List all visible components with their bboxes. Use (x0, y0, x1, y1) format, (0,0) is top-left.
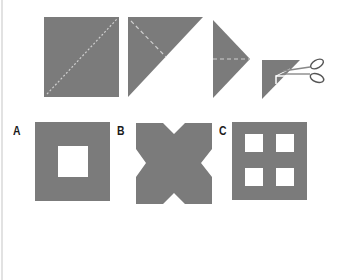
option-b-shape[interactable] (136, 123, 212, 204)
step-cut-triangle (262, 60, 300, 99)
option-a-label: A (13, 124, 21, 137)
option-c-label: C (219, 124, 227, 137)
option-b-label: B (117, 124, 125, 137)
puzzle-diagram (0, 0, 343, 280)
option-c-shape[interactable] (232, 122, 307, 200)
step-unfolded-square (44, 17, 119, 97)
step-folded-small-triangle (213, 20, 250, 98)
option-a-shape[interactable] (35, 122, 110, 201)
step-folded-triangle (128, 17, 203, 97)
